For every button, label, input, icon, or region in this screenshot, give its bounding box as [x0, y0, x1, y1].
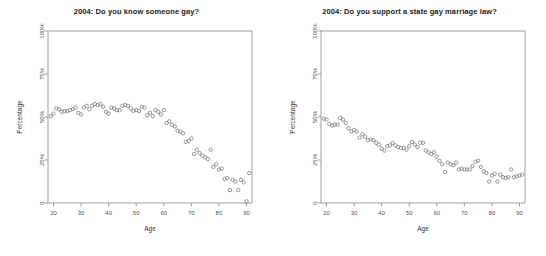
y-axis-tick-label: 100% — [39, 23, 45, 39]
y-axis-tick-label: 75% — [312, 67, 318, 80]
x-axis-tick-label: 90 — [516, 210, 523, 216]
data-point — [416, 145, 419, 148]
data-point — [209, 148, 212, 151]
x-axis-tick-label: 80 — [216, 210, 223, 216]
data-point — [245, 200, 248, 203]
y-axis-tick-label: 50% — [312, 110, 318, 123]
plot-frame — [321, 31, 525, 203]
data-point — [212, 165, 215, 168]
data-point — [195, 148, 198, 151]
x-axis-tick-label: 70 — [188, 210, 195, 216]
x-axis-tick-label: 50 — [406, 210, 413, 216]
x-axis-tick-label: 30 — [78, 210, 85, 216]
data-point — [344, 121, 347, 124]
x-axis-tick-label: 80 — [489, 210, 496, 216]
y-axis-tick-label: 50% — [39, 110, 45, 123]
data-point — [479, 165, 482, 168]
data-point — [498, 173, 501, 176]
y-axis-tick-label: 0 — [39, 201, 45, 205]
chart-panel-know-someone-gay: 2004: Do you know someone gay? 025%50%75… — [0, 0, 273, 256]
data-point — [234, 180, 237, 183]
data-point — [85, 104, 88, 107]
data-point — [363, 135, 366, 138]
data-point — [162, 108, 165, 111]
x-axis-tick-label: 50 — [133, 210, 140, 216]
plot-frame — [48, 31, 252, 203]
x-axis-tick-label: 40 — [378, 210, 385, 216]
data-point-group — [49, 102, 251, 203]
data-point — [198, 151, 201, 154]
data-point — [383, 149, 386, 152]
scatter-plot-know-someone-gay: 025%50%75%100%2030405060708090AgePercent… — [0, 0, 273, 256]
figure-root: 2004: Do you know someone gay? 025%50%75… — [0, 0, 546, 256]
data-point — [493, 172, 496, 175]
data-point — [355, 130, 358, 133]
x-axis-title: Age — [417, 225, 429, 233]
y-axis-tick-label: 25% — [39, 153, 45, 166]
x-axis-tick-label: 20 — [50, 210, 57, 216]
data-point — [496, 180, 499, 183]
data-point — [107, 112, 110, 115]
data-point — [441, 163, 444, 166]
data-point — [228, 188, 231, 191]
chart-panel-support-marriage-law: 2004: Do you support a state gay marriag… — [273, 0, 546, 256]
data-point — [347, 126, 350, 129]
y-axis-tick-label: 25% — [312, 153, 318, 166]
y-axis-title: Percentage — [289, 100, 297, 134]
data-point — [408, 145, 411, 148]
y-axis-tick-label: 100% — [312, 23, 318, 39]
data-point — [52, 112, 55, 115]
data-point-group — [322, 116, 524, 183]
data-point — [248, 171, 251, 174]
data-point — [485, 171, 488, 174]
data-point — [471, 164, 474, 167]
data-point — [405, 148, 408, 151]
data-point — [361, 133, 364, 136]
data-point — [173, 125, 176, 128]
data-point — [242, 181, 245, 184]
data-point — [454, 161, 457, 164]
data-point — [341, 118, 344, 121]
y-axis-tick-label: 0 — [312, 201, 318, 205]
data-point — [358, 136, 361, 139]
y-axis-title: Percentage — [16, 100, 24, 134]
data-point — [413, 143, 416, 146]
data-point — [146, 114, 149, 117]
data-point — [190, 137, 193, 140]
data-point — [432, 151, 435, 154]
data-point — [214, 163, 217, 166]
data-point — [79, 113, 82, 116]
x-axis-tick-label: 70 — [461, 210, 468, 216]
x-axis-title: Age — [144, 225, 156, 233]
data-point — [168, 120, 171, 123]
data-point — [157, 110, 160, 113]
data-point — [88, 108, 91, 111]
data-point — [181, 132, 184, 135]
data-point — [377, 143, 380, 146]
data-point — [438, 159, 441, 162]
data-point — [148, 111, 151, 114]
data-point — [49, 114, 52, 117]
x-axis-tick-label: 90 — [243, 210, 250, 216]
data-point — [159, 113, 162, 116]
data-point — [74, 106, 77, 109]
data-point — [237, 188, 240, 191]
data-point — [101, 105, 104, 108]
data-point — [487, 180, 490, 183]
x-axis-tick-label: 60 — [433, 210, 440, 216]
data-point — [129, 107, 132, 110]
data-point — [510, 168, 513, 171]
data-point — [239, 178, 242, 181]
data-point — [443, 170, 446, 173]
data-point — [410, 140, 413, 143]
y-axis-tick-label: 75% — [39, 67, 45, 80]
data-point — [206, 157, 209, 160]
data-point — [151, 114, 154, 117]
x-axis-tick-label: 30 — [351, 210, 358, 216]
data-point — [391, 141, 394, 144]
data-point — [192, 152, 195, 155]
x-axis-tick-label: 60 — [160, 210, 167, 216]
data-point — [435, 155, 438, 158]
x-axis-tick-label: 20 — [323, 210, 330, 216]
x-axis-tick-label: 40 — [105, 210, 112, 216]
